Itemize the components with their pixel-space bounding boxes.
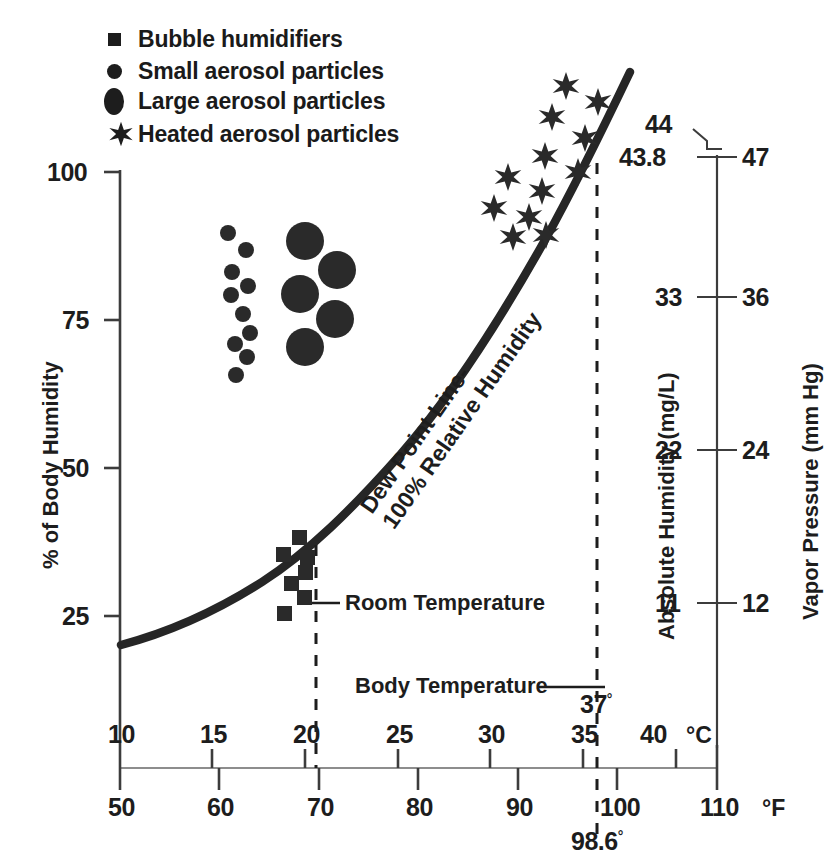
x-axis-celsius-tick-label-15: 15 — [200, 720, 227, 749]
x-axis-celsius-tick-label-35: 35 — [571, 720, 598, 749]
y-axis-left-tick-label-25: 25 — [62, 602, 89, 631]
y-axis-right-inner-title: Absolute Humidity (mg/L) — [654, 372, 680, 640]
marker-square — [284, 576, 299, 591]
x-axis-celsius-unit-label: °C — [686, 722, 712, 749]
y-axis-left-tick-label-100: 100 — [47, 158, 87, 187]
marker-star — [481, 194, 508, 222]
marker-large-circle — [286, 328, 324, 366]
marker-star — [516, 203, 543, 231]
marker-square — [300, 550, 315, 565]
marker-square — [277, 606, 292, 621]
x-axis-fahrenheit-tick-label-50: 50 — [108, 793, 135, 822]
legend-marker-large-circle-icon — [104, 88, 138, 115]
legend-item-heated-aerosol-particles[interactable]: Heated aerosol particles — [104, 120, 399, 148]
x-axis-celsius-tick-label-30: 30 — [478, 720, 505, 749]
marker-square — [276, 547, 291, 562]
marker-large-circle — [281, 275, 319, 313]
label-44-leader — [693, 129, 722, 149]
marker-star — [495, 163, 522, 191]
y-axis-left-title: % of Body Humidity — [38, 361, 64, 569]
x-axis-fahrenheit-tick-label-100: 100 — [600, 793, 640, 822]
x-axis-fahrenheit-tick-label-90: 90 — [506, 793, 533, 822]
marker-square — [292, 530, 307, 545]
marker-group-heated-aerosol-particles — [481, 72, 612, 251]
legend-label: Bubble humidifiers — [138, 26, 343, 53]
y-axis-right-outer-tick-label-36: 36 — [742, 283, 769, 312]
y-axis-right-outer-tick-label-24: 24 — [742, 436, 769, 465]
x-axis-fahrenheit-tick-label-110: 110 — [700, 793, 739, 822]
body-temperature-fahrenheit-number: 98.6 — [571, 827, 618, 855]
marker-small-circle — [223, 287, 239, 303]
legend-label: Heated aerosol particles — [138, 121, 399, 148]
y-axis-left-tick-label-50: 50 — [62, 454, 89, 483]
marker-small-circle — [228, 367, 244, 383]
legend-item-bubble-humidifiers[interactable]: Bubble humidifiers — [104, 26, 343, 53]
marker-group-small-aerosol-particles — [220, 225, 258, 383]
marker-small-circle — [240, 278, 256, 294]
body-temperature-celsius-number: 37 — [580, 690, 607, 718]
y-axis-right-outer-title: Vapor Pressure (mm Hg) — [798, 363, 824, 620]
body-temperature-fahrenheit-value: 98.6° — [571, 827, 623, 856]
dew-point-curve — [121, 72, 630, 645]
legend-marker-small-circle-icon — [104, 64, 138, 79]
x-axis-fahrenheit-tick-label-60: 60 — [207, 793, 234, 822]
x-axis-fahrenheit-tick-label-80: 80 — [406, 793, 433, 822]
marker-star — [539, 103, 566, 131]
marker-small-circle — [235, 306, 251, 322]
x-axis-fahrenheit-unit-label: °F — [762, 795, 785, 822]
marker-large-circle — [316, 300, 354, 338]
x-axis-celsius-tick-label-25: 25 — [386, 720, 413, 749]
x-axis-celsius-tick-label-20: 20 — [293, 720, 320, 749]
marker-small-circle — [224, 264, 240, 280]
x-axis-celsius-tick-label-10: 10 — [108, 720, 135, 749]
body-temperature-annotation-label: Body Temperature — [355, 673, 548, 699]
marker-star — [529, 177, 556, 205]
y-axis-right-inner-tick-label-43-8: 43.8 — [619, 143, 666, 172]
legend-label: Large aerosol particles — [138, 88, 385, 115]
marker-star — [532, 142, 559, 170]
marker-large-circle — [286, 222, 324, 260]
y-axis-right-inner-label-44: 44 — [645, 110, 672, 139]
y-axis-right-outer-tick-label-12: 12 — [742, 589, 769, 618]
dew-point-curve-label: Dew Point Line- 100% Relative Humidity — [355, 291, 547, 533]
marker-star — [500, 223, 527, 251]
chart-canvas: Dew Point Line- 100% Relative Humidity B… — [0, 0, 828, 858]
legend-item-small-aerosol-particles[interactable]: Small aerosol particles — [104, 58, 384, 85]
room-temperature-annotation-label: Room Temperature — [345, 590, 545, 616]
y-axis-right-outer-tick-label-47: 47 — [742, 143, 769, 172]
marker-group-large-aerosol-particles — [281, 222, 356, 366]
legend-label: Small aerosol particles — [138, 58, 384, 85]
curve-label-line2: 100% Relative Humidity — [377, 307, 547, 534]
marker-small-circle — [227, 336, 243, 352]
marker-small-circle — [238, 242, 254, 258]
marker-square — [298, 565, 313, 580]
marker-small-circle — [242, 325, 258, 341]
body-temperature-celsius-value: 37° — [580, 690, 612, 719]
degree-symbol-icon: ° — [618, 828, 623, 844]
marker-square — [297, 590, 312, 605]
y-axis-left-tick-label-75: 75 — [62, 306, 89, 335]
degree-symbol-icon: ° — [607, 691, 612, 707]
legend-marker-star-icon — [104, 120, 138, 148]
x-axis-celsius-tick-label-40: 40 — [640, 720, 667, 749]
legend-marker-square-icon — [104, 33, 138, 46]
marker-star — [553, 72, 580, 100]
x-axis-fahrenheit-tick-label-70: 70 — [307, 793, 334, 822]
marker-large-circle — [318, 251, 356, 289]
legend-item-large-aerosol-particles[interactable]: Large aerosol particles — [104, 88, 385, 115]
marker-small-circle — [220, 225, 236, 241]
marker-small-circle — [239, 349, 255, 365]
y-axis-right-inner-tick-label-33: 33 — [655, 283, 682, 312]
